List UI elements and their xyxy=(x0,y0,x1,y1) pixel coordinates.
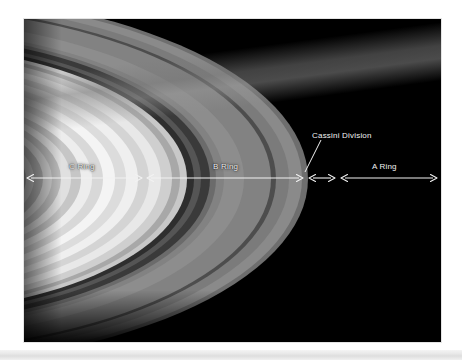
ring-system-graphic xyxy=(24,19,441,342)
footer-bar xyxy=(0,350,462,360)
slide-canvas: C Ring B Ring A Ring Cassini Division xyxy=(0,0,462,360)
saturn-rings-photo: C Ring B Ring A Ring Cassini Division xyxy=(24,19,441,342)
